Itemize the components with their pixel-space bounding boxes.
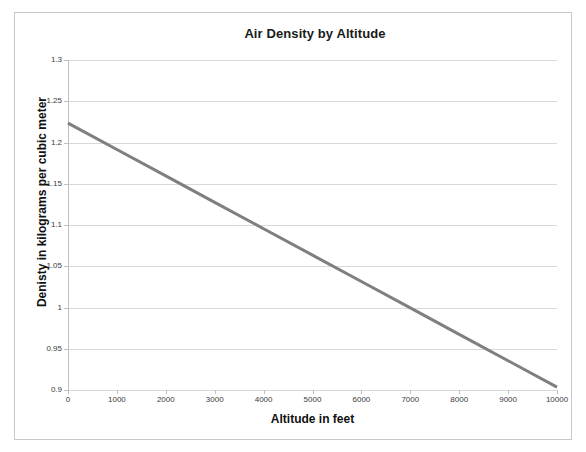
y-tick-label-0.9: 0.9 (20, 386, 62, 394)
x-tick-mark-8000 (459, 390, 460, 394)
y-axis-title: Denisty in kilograms per cubic meter (35, 77, 49, 327)
gridline-y-1.1 (68, 225, 557, 226)
x-tick-mark-6000 (361, 390, 362, 394)
y-tick-mark-1.3 (64, 60, 68, 61)
x-tick-mark-10000 (557, 390, 558, 394)
gridline-y-1.25 (68, 101, 557, 102)
y-tick-mark-1.2 (64, 143, 68, 144)
x-tick-mark-3000 (215, 390, 216, 394)
x-tick-mark-0 (68, 390, 69, 394)
gridline-y-0.95 (68, 349, 557, 350)
y-tick-label-1.3: 1.3 (20, 56, 62, 64)
x-tick-label-10000: 10000 (527, 396, 586, 404)
y-tick-mark-1.05 (64, 266, 68, 267)
x-tick-mark-9000 (508, 390, 509, 394)
y-axis-line (68, 60, 69, 391)
y-tick-mark-1.15 (64, 184, 68, 185)
y-tick-mark-1.25 (64, 101, 68, 102)
gridline-y-1.2 (68, 143, 557, 144)
y-tick-mark-1.1 (64, 225, 68, 226)
y-tick-mark-0.95 (64, 349, 68, 350)
x-axis-title: Altitude in feet (68, 412, 557, 426)
gridline-y-1 (68, 308, 557, 309)
x-tick-mark-5000 (313, 390, 314, 394)
plot-area (68, 60, 557, 390)
x-tick-mark-1000 (117, 390, 118, 394)
y-tick-mark-1 (64, 308, 68, 309)
x-tick-mark-2000 (166, 390, 167, 394)
x-tick-mark-4000 (264, 390, 265, 394)
gridline-y-1.15 (68, 184, 557, 185)
y-tick-label-0.95: 0.95 (20, 345, 62, 353)
x-tick-mark-7000 (410, 390, 411, 394)
chart-title: Air Density by Altitude (70, 26, 560, 41)
gridline-y-1.05 (68, 266, 557, 267)
chart-figure: Air Density by Altitude 0.90.9511.051.11… (0, 0, 586, 452)
gridline-y-1.3 (68, 60, 557, 61)
